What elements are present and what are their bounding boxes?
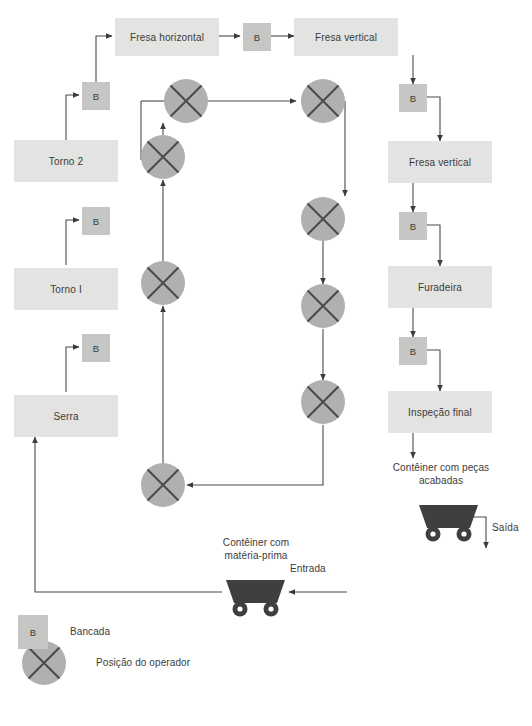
line-bench-to-fresavertical-right: [425, 97, 440, 141]
bench-label: B: [410, 221, 417, 232]
container-finished-caption: Contêiner com peças acabadas: [378, 462, 504, 487]
line-serra-to-bench: [66, 347, 79, 392]
cart-finished-parts: [419, 505, 478, 542]
machine-label: Furadeira: [418, 282, 462, 293]
bench-label: B: [93, 91, 100, 102]
machine-fresa-vertical-top[interactable]: Fresa vertical: [294, 18, 398, 56]
machine-label: Inspeção final: [408, 407, 472, 418]
bench-torno-2[interactable]: B: [82, 82, 110, 110]
line-torno1-to-bench: [66, 220, 79, 265]
line-torno2-to-bench: [66, 95, 79, 140]
legend-bancada-glyph: B: [30, 627, 37, 638]
operator-symbols: [141, 79, 345, 507]
operator-position: [164, 79, 208, 123]
legend-bancada-label: Bancada: [70, 626, 110, 637]
operator-position: [301, 380, 345, 424]
machine-torno-2[interactable]: Torno 2: [14, 140, 118, 182]
bench-fresa-vertical-right[interactable]: B: [399, 84, 427, 112]
bench-fresa-mid[interactable]: B: [243, 23, 271, 51]
bench-label: B: [93, 216, 100, 227]
saida-label: Saída: [492, 522, 532, 535]
bench-label: B: [410, 346, 417, 357]
operator-position: [141, 463, 185, 507]
machine-inspecao-final[interactable]: Inspeção final: [388, 391, 492, 433]
machine-torno-1[interactable]: Torno I: [14, 268, 118, 310]
flow-connectors: [0, 0, 532, 726]
bench-label: B: [93, 343, 100, 354]
entrada-label: Entrada: [290, 563, 350, 576]
machine-label: Serra: [53, 411, 78, 422]
machine-furadeira[interactable]: Furadeira: [388, 266, 492, 308]
container-raw-line-2: matéria-prima: [196, 550, 316, 563]
bench-serra[interactable]: B: [82, 334, 110, 362]
bench-label: B: [254, 32, 261, 43]
machine-label: Fresa horizontal: [130, 32, 204, 43]
legend-operador-label: Posição do operador: [96, 657, 190, 668]
container-raw-line-1: Contêiner com: [196, 537, 316, 550]
machine-label: Torno I: [50, 284, 82, 295]
machine-fresa-horizontal[interactable]: Fresa horizontal: [115, 18, 219, 56]
machine-label: Fresa vertical: [315, 32, 377, 43]
cart-raw-material: [226, 580, 285, 617]
operator-position: [141, 261, 185, 305]
manufacturing-cell-diagram: Fresa horizontal Fresa vertical Fresa ve…: [0, 0, 532, 726]
machine-label: Fresa vertical: [409, 157, 471, 168]
bench-label: B: [410, 93, 417, 104]
container-finished-line-2: acabadas: [378, 475, 504, 488]
legend-bancada-symbol: B: [18, 615, 48, 649]
machine-serra[interactable]: Serra: [14, 395, 118, 437]
bench-inspecao[interactable]: B: [399, 337, 427, 365]
line-bench-to-inspecao: [425, 350, 440, 391]
machine-fresa-vertical-right[interactable]: Fresa vertical: [388, 141, 492, 183]
line-op8-to-op6: [187, 425, 323, 485]
line-cart-to-serra: [35, 437, 222, 592]
bench-furadeira[interactable]: B: [399, 212, 427, 240]
line-bench-to-furadeira: [425, 225, 440, 266]
machine-label: Torno 2: [49, 156, 83, 167]
container-raw-caption: Contêiner com matéria-prima: [196, 537, 316, 562]
operator-position: [141, 135, 185, 179]
line-bench-to-fresa-horizontal: [96, 36, 112, 82]
bench-torno-1[interactable]: B: [82, 207, 110, 235]
operator-position: [301, 79, 345, 123]
container-finished-line-1: Contêiner com peças: [378, 462, 504, 475]
operator-position: [301, 197, 345, 241]
operator-position: [301, 284, 345, 328]
